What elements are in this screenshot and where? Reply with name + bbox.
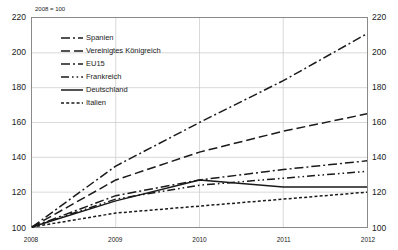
legend-line-swatch-icon — [61, 46, 83, 56]
legend-item[interactable]: Frankreich — [61, 70, 161, 83]
y-axis-tick-label-right: 120 — [372, 188, 386, 197]
legend-line-swatch-icon — [61, 33, 83, 43]
legend-item[interactable]: Deutschland — [61, 83, 161, 96]
y-axis-tick-label-right: 200 — [372, 48, 386, 57]
legend-line-swatch-icon — [61, 72, 83, 82]
chart-container: 2008 = 100 100120140160180200220 1001201… — [0, 0, 398, 250]
y-axis-tick-label-left: 180 — [12, 83, 26, 92]
legend-line-swatch-icon — [61, 85, 83, 95]
y-axis-tick-label-right: 140 — [372, 153, 386, 162]
y-axis-tick-label-left: 160 — [12, 118, 26, 127]
x-axis-tick-label: 2012 — [361, 237, 375, 244]
y-axis-tick-label-right: 160 — [372, 118, 386, 127]
x-axis-tick-label: 2009 — [108, 237, 122, 244]
y-axis-tick-label-left: 120 — [12, 188, 26, 197]
series-line — [32, 161, 367, 227]
y-axis-tick-label-left: 100 — [12, 224, 26, 233]
series-line — [32, 192, 367, 227]
series-line — [32, 114, 367, 227]
x-axis-tick-label: 2008 — [24, 237, 38, 244]
legend-item[interactable]: Spanien — [61, 31, 161, 44]
legend-item[interactable]: Italien — [61, 96, 161, 109]
x-axis-tick-label: 2010 — [192, 237, 206, 244]
base-index-note: 2008 = 100 — [35, 6, 65, 12]
legend-line-swatch-icon — [61, 59, 83, 69]
legend-item[interactable]: Vereinigtes Königreich — [61, 44, 161, 57]
legend-item-label: Deutschland — [86, 85, 128, 94]
legend-item[interactable]: EU15 — [61, 57, 161, 70]
legend-item-label: Spanien — [86, 33, 114, 42]
legend: SpanienVereinigtes KönigreichEU15Frankre… — [61, 31, 161, 109]
legend-item-label: EU15 — [86, 59, 105, 68]
x-axis-tick-label: 2011 — [277, 237, 291, 244]
y-axis-tick-label-right: 220 — [372, 13, 386, 22]
legend-item-label: Italien — [86, 98, 106, 107]
series-line — [32, 180, 367, 227]
y-axis-tick-label-left: 200 — [12, 48, 26, 57]
y-axis-tick-label-right: 100 — [372, 224, 386, 233]
y-axis-tick-label-right: 180 — [372, 83, 386, 92]
y-axis-tick-label-left: 140 — [12, 153, 26, 162]
y-axis-tick-label-left: 220 — [12, 13, 26, 22]
legend-line-swatch-icon — [61, 98, 83, 108]
legend-item-label: Frankreich — [86, 72, 121, 81]
legend-item-label: Vereinigtes Königreich — [86, 46, 161, 55]
